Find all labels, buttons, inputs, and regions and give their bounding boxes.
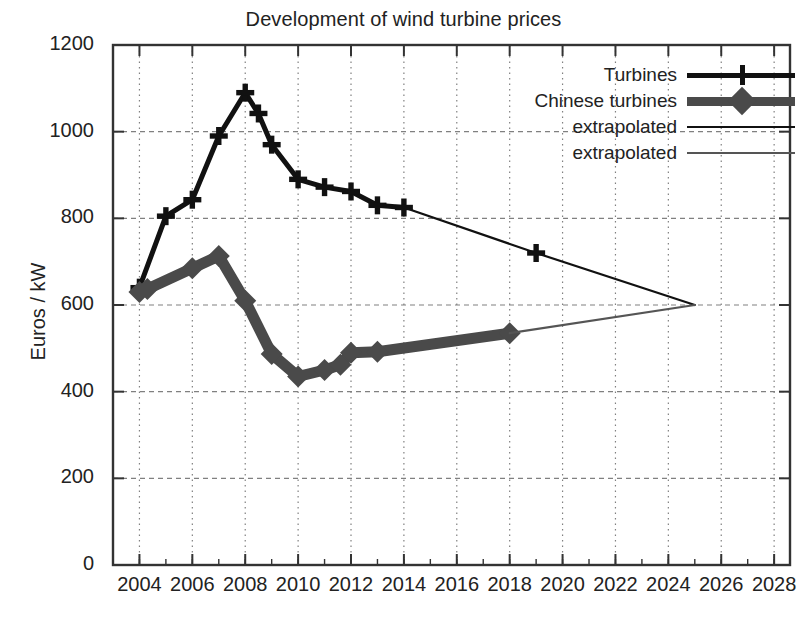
legend-key-extrapolated-gray	[687, 142, 795, 164]
legend-key-turbines	[687, 64, 795, 86]
chart-legend: Turbines Chinese turbines extrapolated e…	[505, 62, 795, 166]
legend-label-extrapolated-gray: extrapolated	[572, 142, 677, 164]
plus-marker-icon	[734, 65, 750, 85]
legend-key-chinese-turbines	[687, 90, 795, 112]
legend-item-chinese-turbines[interactable]: Chinese turbines	[505, 88, 795, 114]
legend-label-chinese-turbines: Chinese turbines	[534, 90, 677, 112]
series-extrapolated-2	[404, 208, 695, 306]
line-swatch-icon	[687, 126, 795, 128]
legend-item-extrapolated-black[interactable]: extrapolated	[505, 114, 795, 140]
legend-item-extrapolated-gray[interactable]: extrapolated	[505, 140, 795, 166]
legend-label-extrapolated-black: extrapolated	[572, 116, 677, 138]
series-extrapolated-3	[510, 305, 695, 333]
legend-label-turbines: Turbines	[604, 64, 677, 86]
diamond-marker-icon	[728, 87, 756, 115]
line-swatch-icon	[687, 152, 795, 154]
series-turbines-0	[130, 84, 412, 297]
chart-container: Development of wind turbine prices Euros…	[0, 0, 807, 628]
legend-key-extrapolated-black	[687, 116, 795, 138]
series-chinese-turbines-1	[128, 245, 520, 387]
legend-item-turbines[interactable]: Turbines	[505, 62, 795, 88]
